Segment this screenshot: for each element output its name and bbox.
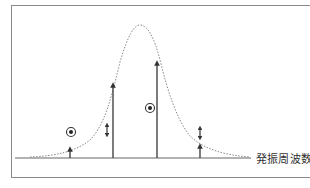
circled-dot-icon-2 (146, 104, 155, 113)
circled-dot-icon-1 (67, 128, 76, 137)
x-axis-label: 発振周波数 (256, 150, 310, 166)
resonance-curve (30, 25, 250, 157)
